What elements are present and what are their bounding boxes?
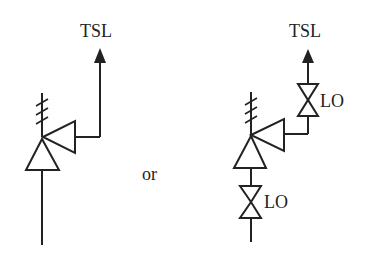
left-tsl-label: TSL: [80, 21, 112, 41]
left-thermal-triangle-icon: [26, 139, 59, 170]
right-hash-marks-icon: [245, 98, 257, 123]
diagram-canvas: TSL or TSL LO: [0, 0, 375, 274]
right-option: TSL LO LO: [234, 21, 344, 242]
lower-valve-label: LO: [264, 192, 288, 212]
upper-valve-label: LO: [320, 91, 344, 111]
left-hash-marks-icon: [36, 99, 48, 124]
separator-or-label: or: [142, 164, 157, 184]
right-arrow-head-icon: [302, 49, 314, 63]
upper-valve-icon: [298, 84, 318, 116]
lower-valve-icon: [240, 186, 261, 218]
right-tsl-label: TSL: [289, 21, 321, 41]
left-arrow-head-icon: [94, 48, 106, 63]
left-option: TSL: [26, 21, 112, 245]
